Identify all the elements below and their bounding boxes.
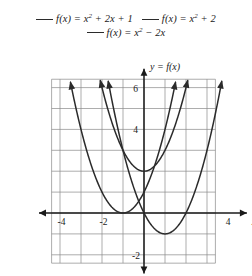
legend-entry-curve-1: f(x) = x2 + 2x + 1 <box>36 14 133 25</box>
quadratic-functions-figure: f(x) = x2 + 2x + 1 f(x) = x2 + 2 f(x) = … <box>0 0 252 276</box>
curve-arrow-icon <box>69 81 75 90</box>
legend-swatch-icon <box>142 19 159 20</box>
axis-line <box>141 69 148 76</box>
tick-label: 4 <box>226 217 231 227</box>
axis-line <box>141 267 148 274</box>
x-axis-label: x <box>251 216 252 227</box>
axis-tick-labels: -4-24-246xy = f(x) <box>58 61 252 261</box>
tick-label: -2 <box>100 217 108 227</box>
coordinate-plot: -4-24-246xy = f(x) <box>0 46 252 276</box>
tick-label: 6 <box>133 84 138 94</box>
legend-label-curve-2: f(x) = x2 + 2 <box>162 14 216 25</box>
curve-arrow-icon <box>171 81 177 90</box>
legend-entry-curve-2: f(x) = x2 + 2 <box>142 14 216 25</box>
axis-line <box>240 210 247 217</box>
tick-label: -4 <box>58 217 66 227</box>
legend-label-curve-3: f(x) = x2 − 2x <box>107 28 166 39</box>
tick-label: -2 <box>132 251 140 261</box>
legend-row-2: f(x) = x2 − 2x <box>0 28 252 39</box>
curve-arrow-icon <box>106 80 112 89</box>
legend-swatch-icon <box>87 32 104 33</box>
legend-row-1: f(x) = x2 + 2x + 1 f(x) = x2 + 2 <box>0 14 252 25</box>
legend-label-curve-1: f(x) = x2 + 2x + 1 <box>56 14 133 25</box>
tick-label: 4 <box>133 125 138 135</box>
curve-arrow-icon <box>217 80 223 89</box>
chart-legend: f(x) = x2 + 2x + 1 f(x) = x2 + 2 f(x) = … <box>0 0 252 38</box>
legend-swatch-icon <box>36 19 53 20</box>
y-axis-label: y = f(x) <box>149 61 181 73</box>
axis-line <box>39 210 46 217</box>
curves-group <box>69 79 224 234</box>
legend-entry-curve-3: f(x) = x2 − 2x <box>87 28 166 39</box>
